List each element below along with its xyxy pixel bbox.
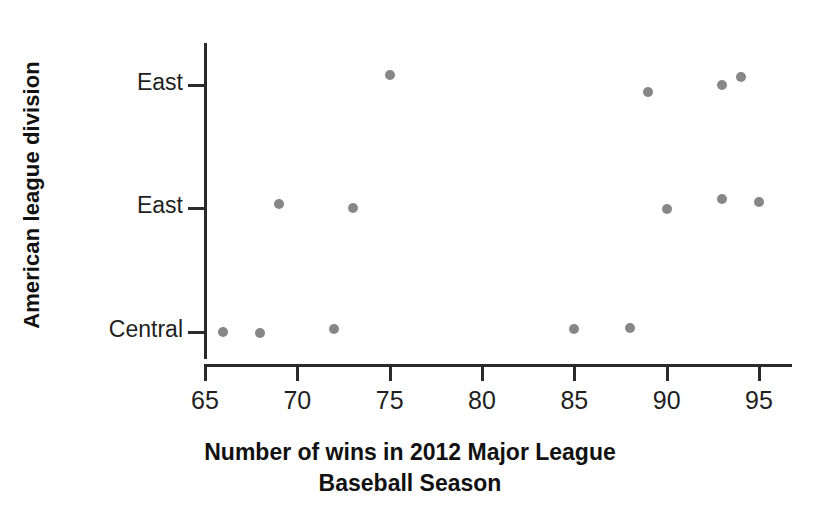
data-point	[754, 197, 764, 207]
data-point	[329, 324, 339, 334]
x-tick-label: 75	[360, 386, 420, 415]
x-axis-title-line-1: Number of wins in 2012 Major League	[150, 437, 670, 468]
y-tick-mark	[188, 331, 206, 334]
data-point	[218, 327, 228, 337]
x-axis-title-line-2: Baseball Season	[150, 468, 670, 499]
scatter-plot-figure: American league division CentralEastEast…	[0, 0, 815, 511]
data-point	[569, 324, 579, 334]
x-tick-label: 90	[637, 386, 697, 415]
data-point	[348, 203, 358, 213]
x-tick-mark	[389, 366, 392, 381]
data-point	[717, 80, 727, 90]
data-point	[625, 323, 635, 333]
x-tick-mark	[481, 366, 484, 381]
y-tick-label: East	[23, 69, 183, 96]
x-tick-mark	[573, 366, 576, 381]
x-tick-label: 85	[544, 386, 604, 415]
data-point	[717, 194, 727, 204]
x-tick-mark	[296, 366, 299, 381]
data-point	[643, 87, 653, 97]
x-tick-label: 65	[175, 386, 235, 415]
x-axis-title: Number of wins in 2012 Major League Base…	[150, 437, 670, 499]
y-tick-mark	[188, 84, 206, 87]
data-point	[274, 199, 284, 209]
x-tick-label: 80	[452, 386, 512, 415]
data-point	[255, 328, 265, 338]
y-tick-label: East	[23, 192, 183, 219]
x-tick-label: 70	[267, 386, 327, 415]
y-tick-label-container: East	[20, 69, 183, 97]
y-tick-label-container: Central	[20, 316, 183, 344]
x-tick-label: 95	[729, 386, 789, 415]
y-tick-mark	[188, 207, 206, 210]
data-point	[385, 70, 395, 80]
x-tick-mark	[204, 366, 207, 381]
y-tick-label-container: East	[20, 192, 183, 220]
x-axis-line	[204, 364, 792, 367]
y-tick-label: Central	[23, 316, 183, 343]
x-tick-mark	[666, 366, 669, 381]
data-point	[736, 72, 746, 82]
y-axis-line	[204, 43, 207, 359]
data-point	[662, 204, 672, 214]
x-tick-mark	[758, 366, 761, 381]
